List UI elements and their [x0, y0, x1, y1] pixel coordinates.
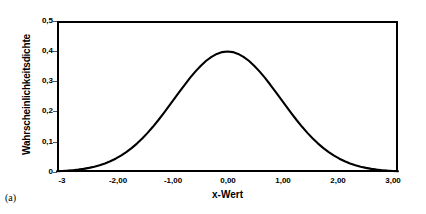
- y-tick-label: 0,5: [31, 16, 53, 26]
- x-axis-title: x-Wert: [57, 189, 398, 200]
- y-tick-mark: [53, 172, 57, 173]
- x-tick-label: -2,00: [98, 176, 138, 185]
- x-tick-label: -1,00: [153, 176, 193, 185]
- y-tick-label: 0,3: [31, 76, 53, 86]
- x-tick-label: 1,00: [263, 176, 303, 185]
- x-tick-label: 2,00: [318, 176, 358, 185]
- density-curve: [57, 21, 398, 172]
- x-tick-label: 0,00: [208, 176, 248, 185]
- x-tick-label: -3: [42, 176, 82, 185]
- density-curve-path: [57, 52, 398, 172]
- figure-caption: (a): [5, 192, 16, 203]
- y-tick-label: 0,4: [31, 46, 53, 56]
- y-tick-label: 0,2: [31, 106, 53, 116]
- y-axis-title: Wahrscheinlichkeitsdichte: [21, 15, 32, 175]
- y-tick-label: 0,1: [31, 137, 53, 147]
- figure-normal-distribution: 0,5 0,4 0,3 0,2 0,1 0 -3 -2,00 -1,00 0,0…: [0, 0, 426, 214]
- x-tick-label: 3,00: [373, 176, 413, 185]
